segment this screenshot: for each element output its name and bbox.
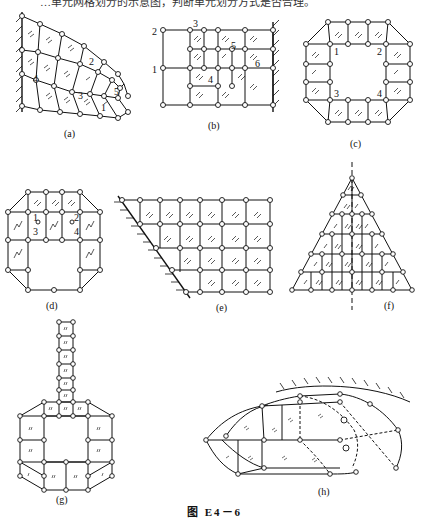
node-label-a-3: 3 xyxy=(78,90,83,101)
figure-canvas xyxy=(0,0,429,522)
panel-label-e: (e) xyxy=(216,302,227,313)
node-label-b-5: 5 xyxy=(231,40,236,51)
node-label-c-3: 3 xyxy=(334,88,339,99)
node-label-c-1: 1 xyxy=(334,46,339,57)
panel-label-c: (c) xyxy=(350,138,361,149)
panel-label-b: (b) xyxy=(208,120,220,131)
node-label-b-2: 2 xyxy=(152,26,157,37)
panel-h-mesh xyxy=(204,377,410,476)
node-label-d-3: 3 xyxy=(33,226,38,237)
node-label-c-2: 2 xyxy=(377,46,382,57)
node-label-c-4: 4 xyxy=(377,88,382,99)
node-label-d-4: 4 xyxy=(74,226,79,237)
panel-label-h: (h) xyxy=(318,486,330,497)
node-label-b-6: 6 xyxy=(255,58,260,69)
panel-c-mesh xyxy=(304,20,413,125)
node-label-b-1: 1 xyxy=(152,64,157,75)
panel-e-mesh xyxy=(114,196,273,298)
node-label-a-4: 4 xyxy=(33,73,38,84)
node-label-b-3: 3 xyxy=(193,18,198,29)
node-label-a-2: 2 xyxy=(89,56,94,67)
figure-caption: 图 E4－6 xyxy=(0,503,429,519)
node-label-b-4: 4 xyxy=(208,74,213,85)
panel-f-mesh xyxy=(290,162,415,310)
node-label-d-1: 1 xyxy=(33,212,38,223)
node-label-a-1: 1 xyxy=(101,102,106,113)
panel-label-d: (d) xyxy=(46,300,58,311)
panel-d-mesh xyxy=(6,190,103,293)
node-label-d-2: 2 xyxy=(74,212,79,223)
panel-label-a: (a) xyxy=(64,128,75,139)
panel-g-mesh xyxy=(18,320,115,493)
panel-label-f: (f) xyxy=(384,300,394,311)
panel-a-mesh xyxy=(16,12,131,121)
node-label-a-5: 5 xyxy=(114,86,119,97)
panel-b-mesh xyxy=(161,20,280,112)
